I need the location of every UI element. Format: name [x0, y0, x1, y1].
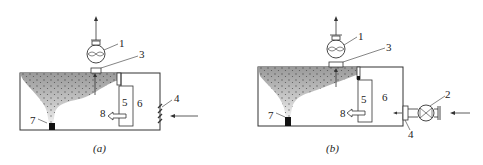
label-1: 1	[358, 30, 364, 42]
label-4: 4	[174, 92, 180, 104]
diagram-canvas: 1 3 4 5 6 7 8 (a)	[0, 0, 483, 165]
label-8: 8	[340, 107, 346, 119]
label-7: 7	[268, 109, 274, 121]
exhaust-arrow-icon	[334, 16, 338, 21]
exhaust-arrow-icon	[94, 16, 98, 21]
panel-a: 1 3 4 5 6 7 8 (a)	[20, 16, 198, 155]
label-1: 1	[119, 37, 125, 49]
inlet-arrow-icon	[170, 114, 175, 118]
drain-block	[49, 123, 55, 130]
outlet-flange	[91, 68, 101, 73]
label-7: 7	[30, 114, 36, 126]
caption-b: (b)	[326, 142, 339, 155]
label-6: 6	[137, 97, 143, 109]
outlet-flange	[329, 62, 343, 67]
label-3: 3	[386, 41, 392, 53]
label-5: 5	[122, 96, 128, 108]
inlet-pipe-flange	[403, 106, 408, 120]
caption-a: (a)	[93, 142, 106, 155]
inlet-arrow-icon	[450, 111, 455, 115]
label-5: 5	[361, 93, 367, 105]
label-4: 4	[408, 128, 414, 140]
panel-b: 1 3 2 4 5 6 7 8 (b)	[258, 16, 470, 155]
label-8: 8	[100, 107, 106, 119]
label-6: 6	[382, 91, 388, 103]
drain-block	[285, 117, 291, 126]
label-3: 3	[139, 48, 145, 60]
label-2: 2	[445, 88, 451, 100]
